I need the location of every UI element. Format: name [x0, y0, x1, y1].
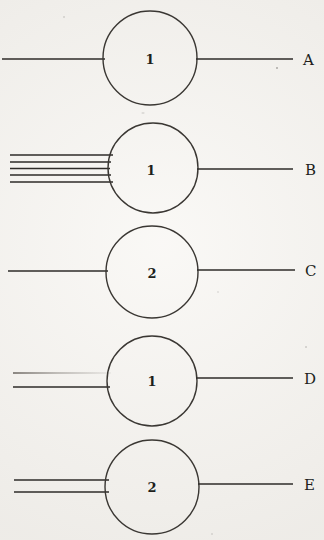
row-label-A: A: [302, 51, 314, 69]
diagram-row-B: 1B: [10, 123, 317, 213]
cell-number-B: 1: [146, 163, 155, 178]
cell-number-D: 1: [147, 374, 156, 389]
scanned-figure-page: 1A1B2C1D2E: [0, 0, 324, 540]
diagram-row-A: 1A: [2, 11, 314, 105]
cell-number-E: 2: [147, 480, 156, 495]
diagram-row-D: 1D: [13, 336, 317, 426]
diagram-row-C: 2C: [8, 226, 317, 318]
diagram-row-E: 2E: [14, 440, 315, 534]
row-label-E: E: [304, 476, 315, 494]
cell-number-C: 2: [147, 266, 156, 281]
row-label-C: C: [305, 262, 317, 280]
row-label-D: D: [304, 370, 317, 388]
row-label-B: B: [305, 161, 317, 179]
cell-number-A: 1: [145, 52, 154, 67]
neuron-convergence-diagram: 1A1B2C1D2E: [0, 0, 324, 540]
